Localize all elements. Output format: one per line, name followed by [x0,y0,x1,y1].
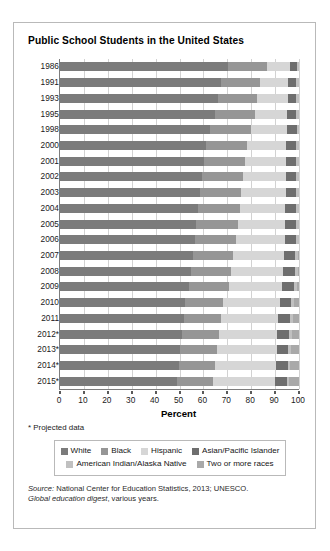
y-axis-label: 2003 [14,188,59,196]
legend-label: Black [111,447,131,455]
bar-2014-projected [60,361,299,370]
bar-2011 [60,314,299,323]
legend-label: American Indian/Alaska Native [76,460,186,468]
bar-segment [60,94,218,103]
bar-segment [251,125,287,134]
bar-1995 [60,110,299,119]
bar-segment [282,282,294,291]
bar-segment [60,345,180,354]
bar-segment [278,314,290,323]
x-tick [107,391,109,394]
x-axis-title: Percent [59,408,298,419]
bar-segment [221,78,260,87]
legend-item[interactable]: Hispanic [141,447,182,455]
bar-2001 [60,157,299,166]
bar-segment [287,125,297,134]
bar-segment [60,298,185,307]
bar-segment [287,110,296,119]
bar-segment [241,188,285,197]
bar-segment [294,298,299,307]
bar-segment [290,62,297,71]
source-text-1: National Center for Education Statistics… [54,484,248,493]
y-axis-label: 2010 [14,298,59,306]
legend-item[interactable]: Asian/Pacific Islander [192,447,279,455]
x-tick [274,391,276,394]
bar-segment [60,62,228,71]
bar-segment [60,110,215,119]
bar-segment [179,361,215,370]
bar-segment [255,110,287,119]
bar-segment [60,78,221,87]
bar-segment [189,282,228,291]
bar-segment [210,125,251,134]
bar-segment [247,141,286,150]
bar-segment [213,377,275,386]
bar-segment [221,314,279,323]
bar-1998 [60,125,299,134]
bar-segment [202,172,243,181]
y-axis-label: 1986 [14,62,59,70]
bar-2003 [60,188,299,197]
bar-segment [60,282,189,291]
y-axis-label: 1991 [14,78,59,86]
x-tick [298,391,300,394]
bar-1986 [60,62,299,71]
x-tick-label: 50 [174,395,183,405]
legend-swatch-icon [192,448,199,455]
legend-item[interactable]: White [61,447,92,455]
bar-segment [297,282,299,291]
bar-segment [185,298,223,307]
chart-screenshot: Public School Students in the United Sta… [0,0,330,551]
legend-swatch-icon [66,461,73,468]
bar-segment [285,235,296,244]
y-axis-label: 2001 [14,157,59,165]
bar-segment [200,188,241,197]
bar-segment [267,62,291,71]
legend-item[interactable]: Black [101,447,131,455]
bar-segment [297,62,299,71]
legend-item[interactable]: Two or more races [197,460,274,468]
bar-segment [285,220,296,229]
bar-segment [60,330,182,339]
y-axis-label: 2005 [14,220,59,228]
bar-segment [219,330,278,339]
bar-segment [60,204,198,213]
bar-segment [60,172,202,181]
y-axis-label: 2006 [14,235,59,243]
legend-label: Asian/Pacific Islander [202,447,279,455]
bar-segment [223,298,280,307]
bar-segment [277,330,289,339]
bar-segment [228,62,266,71]
bar-segment [238,220,285,229]
x-tick [250,391,252,394]
bar-segment [296,172,299,181]
x-tick-label: 40 [150,395,159,405]
legend-row-1: WhiteBlackHispanicAsian/Pacific Islander [55,445,285,458]
bar-2005 [60,220,299,229]
bar-segment [290,361,299,370]
source-publication: Global education digest [28,494,107,503]
bar-segment [60,235,195,244]
bar-segment [204,157,245,166]
bar-segment [60,251,193,260]
bar-segment [277,345,289,354]
bar-segment [296,204,299,213]
bar-segment [284,251,295,260]
y-axis-label: 2015* [14,377,59,385]
x-tick [83,391,85,394]
bar-segment [245,157,286,166]
bar-segment [217,345,277,354]
legend-label: White [71,447,92,455]
y-axis-labels: 1986199119931995199820002001200220032004… [14,59,59,389]
legend-item[interactable]: American Indian/Alaska Native [66,460,186,468]
bar-segment [296,188,299,197]
x-tick-label: 80 [246,395,255,405]
bar-segment [177,377,213,386]
chart-title: Public School Students in the United Sta… [28,35,244,46]
gridline-100 [299,59,300,389]
y-axis-label: 1998 [14,125,59,133]
bar-segment [60,220,196,229]
bar-1993 [60,94,299,103]
bar-segment [184,314,221,323]
bar-segment [229,282,282,291]
